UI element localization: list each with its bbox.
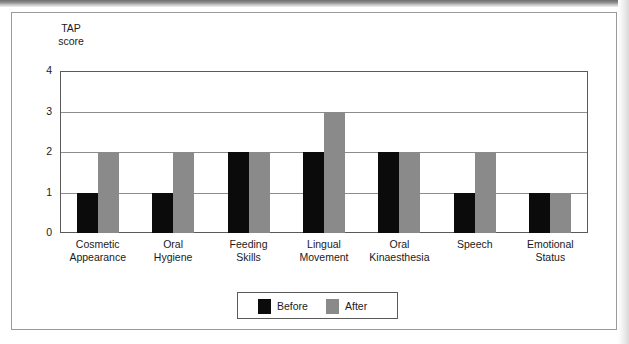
bar-after-feeding-skills xyxy=(249,152,270,233)
legend-swatch-after xyxy=(326,299,339,314)
chart-legend: BeforeAfter xyxy=(237,292,398,319)
bar-before-speech xyxy=(454,193,475,234)
x-label-feeding-skills: Feeding Skills xyxy=(211,238,286,264)
bar-before-oral-hygiene xyxy=(152,193,173,234)
x-label-speech: Speech xyxy=(437,238,512,251)
scan-artifact-top xyxy=(0,0,629,7)
x-label-oral-kinaesthesia: Oral Kinaesthesia xyxy=(362,238,437,264)
bar-after-lingual-movement xyxy=(324,112,345,234)
bar-after-speech xyxy=(475,152,496,233)
bar-after-cosmetic-appearance xyxy=(98,152,119,233)
bar-before-emotional-status xyxy=(529,193,550,234)
y-tick-label-0: 0 xyxy=(30,226,52,238)
bar-after-emotional-status xyxy=(550,193,571,234)
y-tick-label-4: 4 xyxy=(30,64,52,76)
bar-before-feeding-skills xyxy=(228,152,249,233)
y-tick-label-1: 1 xyxy=(30,186,52,198)
bar-after-oral-kinaesthesia xyxy=(399,152,420,233)
legend-swatch-before xyxy=(258,299,271,314)
legend-label-after: After xyxy=(345,300,367,312)
y-tick-label-3: 3 xyxy=(30,105,52,117)
x-label-cosmetic-appearance: Cosmetic Appearance xyxy=(60,238,135,264)
x-label-lingual-movement: Lingual Movement xyxy=(286,238,361,264)
legend-label-before: Before xyxy=(277,300,308,312)
scan-artifact-right xyxy=(618,0,629,344)
chart-figure: TAP score 01234 Cosmetic AppearanceOral … xyxy=(0,0,629,344)
bar-after-oral-hygiene xyxy=(173,152,194,233)
bar-before-cosmetic-appearance xyxy=(77,193,98,234)
x-label-oral-hygiene: Oral Hygiene xyxy=(135,238,210,264)
y-tick-label-2: 2 xyxy=(30,145,52,157)
y-axis-title: TAP score xyxy=(36,22,106,48)
bar-before-lingual-movement xyxy=(303,152,324,233)
bar-before-oral-kinaesthesia xyxy=(378,152,399,233)
x-label-emotional-status: Emotional Status xyxy=(513,238,588,264)
